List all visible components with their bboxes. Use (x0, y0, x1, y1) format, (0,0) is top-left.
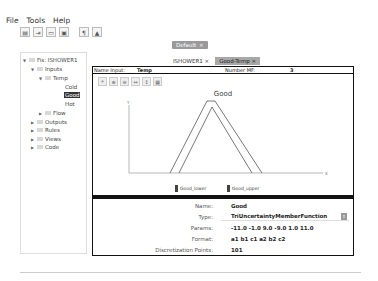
legend-good-upper: Good_upper (227, 185, 259, 192)
close-icon[interactable]: × (252, 58, 257, 64)
folder-icon (29, 58, 35, 62)
zoom-in-icon[interactable]: ⊕ (109, 77, 118, 86)
name-input-value: Temp (137, 67, 152, 73)
tab-default-label: Default (176, 42, 196, 48)
tab-good-temp[interactable]: Good-Temp × (215, 57, 260, 65)
run-icon[interactable]: ▲ (92, 27, 102, 37)
svg-text:Y: Y (126, 100, 130, 105)
import-icon[interactable]: ⇥ (33, 27, 43, 37)
tree-root[interactable]: ▼Fis: ISHOWER1 (23, 57, 78, 63)
menu-tools[interactable]: Tools (27, 16, 45, 25)
folder-icon (37, 120, 43, 124)
collapse-icon[interactable]: ▶ (39, 111, 43, 116)
prop-type-row: Type: TriUncertaintyMemberFunction ⇕ (93, 212, 353, 221)
legend-swatch (175, 185, 178, 192)
input-info-bar: Name Input: Temp Number MF: 3 (93, 67, 353, 74)
tree-flow[interactable]: ▶Flow (39, 110, 66, 116)
collapse-icon[interactable]: ▶ (31, 128, 35, 133)
prop-disc-row: Discretization Points: 101 (93, 245, 353, 254)
expand-icon[interactable]: ▼ (39, 76, 43, 81)
folder-icon (45, 76, 51, 80)
mf-chart: Y X (101, 95, 341, 181)
legend-swatch (227, 185, 230, 192)
folder-icon (45, 111, 51, 115)
tree-hot[interactable]: Hot (65, 101, 75, 107)
name-input-label: Name Input: (94, 67, 125, 73)
tree-temp[interactable]: ▼Temp (39, 75, 68, 81)
folder-icon (37, 137, 43, 141)
tree-views[interactable]: ▶Views (31, 136, 61, 142)
menu-bar: File Tools Help (6, 16, 70, 25)
folder-icon (37, 145, 43, 149)
chart-toolbar: ⌖ ⊕ ⊖ ↔ ↕ ▦ (98, 77, 162, 86)
mf-chart-panel: Name Input: Temp Number MF: 3 ⌖ ⊕ ⊖ ↔ ↕ … (92, 66, 354, 196)
prop-params-value[interactable]: -11.0 -1.0 9.0 -9.0 1.0 11.0 (231, 225, 314, 231)
tree-cold[interactable]: Cold (65, 84, 77, 90)
tab-default[interactable]: Default × (172, 41, 208, 49)
svg-text:X: X (325, 171, 328, 176)
prop-name-row: Name: Good (93, 201, 353, 210)
prop-format-value: a1 b1 c1 a2 b2 c2 (231, 236, 285, 242)
toolbar: ▤ ⇥ ▭ ▣ ¶ ▲ (20, 27, 102, 38)
status-divider (20, 272, 361, 273)
close-icon[interactable]: × (205, 58, 210, 64)
dropdown-icon[interactable]: ⇕ (341, 213, 347, 220)
info-icon[interactable]: ¶ (79, 27, 89, 37)
new-doc-icon[interactable]: ▤ (20, 27, 30, 37)
prop-name-value[interactable]: Good (231, 203, 247, 209)
number-mf-value: 3 (290, 67, 293, 73)
open-folder-icon[interactable]: ▭ (46, 27, 56, 37)
save-icon[interactable]: ▣ (59, 27, 69, 37)
mf-properties-panel: Name: Good Type: TriUncertaintyMemberFun… (92, 196, 354, 256)
collapse-icon[interactable]: ▶ (31, 137, 35, 142)
prop-disc-value[interactable]: 101 (231, 247, 242, 253)
tree-good[interactable]: Good (64, 92, 80, 98)
prop-params-row: Params: -11.0 -1.0 9.0 -9.0 1.0 11.0 (93, 223, 353, 232)
menu-file[interactable]: File (6, 16, 19, 25)
number-mf-label: Number MF: (225, 67, 255, 73)
legend-good-lower: Good_lower (175, 185, 206, 192)
tree-outputs[interactable]: ▶Outputs (31, 119, 67, 125)
zoom-out-icon[interactable]: ⊖ (120, 77, 129, 86)
select-icon[interactable]: ⌖ (98, 77, 107, 86)
type-select[interactable]: TriUncertaintyMemberFunction ⇕ (221, 213, 349, 221)
grid-icon[interactable]: ▦ (153, 77, 162, 86)
tab-ishower1[interactable]: ISHOWER1 × (173, 58, 209, 64)
folder-icon (37, 67, 43, 71)
collapse-icon[interactable]: ▶ (31, 145, 35, 150)
expand-icon[interactable]: ▼ (23, 58, 27, 63)
tree-rules[interactable]: ▶Rules (31, 127, 60, 133)
folder-icon (37, 128, 43, 132)
collapse-icon[interactable]: ▶ (31, 120, 35, 125)
menu-help[interactable]: Help (53, 16, 70, 25)
fit-width-icon[interactable]: ↔ (131, 77, 140, 86)
tree-inputs[interactable]: ▼Inputs (31, 66, 62, 72)
prop-format-row: Format: a1 b1 c1 a2 b2 c2 (93, 234, 353, 243)
tree-code[interactable]: ▶Code (31, 144, 59, 150)
editor-tabs: ISHOWER1 × Good-Temp × (173, 57, 260, 65)
project-tree: ▼Fis: ISHOWER1 ▼Inputs ▼Temp Cold Good H… (20, 52, 87, 254)
close-icon[interactable]: × (199, 42, 204, 48)
expand-icon[interactable]: ▼ (31, 67, 35, 72)
fit-height-icon[interactable]: ↕ (142, 77, 151, 86)
